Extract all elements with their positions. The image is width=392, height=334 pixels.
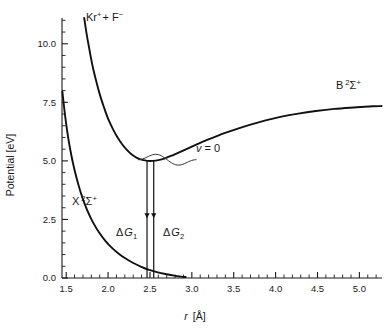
x-tick-label: 1.5 (60, 283, 73, 294)
y-tick-label: 10.0 (38, 38, 57, 49)
svg-text:r[Å]: r[Å] (184, 310, 205, 322)
kr-f-asymptote-label: Kr++ F− (86, 10, 124, 23)
kr-f-label-main: Kr (86, 11, 97, 23)
chart-canvas: 0.02.55.07.510.0 1.52.02.53.03.54.04.55.… (0, 0, 392, 334)
potential-energy-curve-figure: 0.02.55.07.510.0 1.52.02.53.03.54.04.55.… (0, 0, 392, 334)
x-tick-label: 3.5 (227, 283, 240, 294)
svg-text:v= 0: v= 0 (196, 142, 220, 154)
svg-text:Kr++ F−: Kr++ F− (86, 10, 124, 23)
x-state-potential-curve (62, 92, 185, 277)
delta-g2-delta-symbol: Δ (163, 226, 171, 238)
b-state-label: B2Σ+ (336, 78, 361, 91)
kr-f-label-mid: + F (102, 11, 118, 23)
delta-g2-subscript: 2 (180, 232, 184, 241)
x-state-label: X2Σ+ (72, 194, 97, 207)
kr-f-label-sup-minus: − (119, 10, 124, 19)
x-axis-title-unit: [Å] (193, 310, 206, 322)
y-tick-label: 5.0 (43, 155, 56, 166)
x-tick-label: 4.0 (269, 283, 282, 294)
b-state-letter: B (336, 79, 343, 91)
v-label-variable: v (196, 142, 203, 154)
delta-g1-delta-symbol: Δ (116, 226, 124, 238)
y-tick-label: 7.5 (43, 97, 56, 108)
v-label-value: = 0 (205, 142, 221, 154)
x-tick-label: 5.0 (353, 283, 366, 294)
svg-text:ΔG2: ΔG2 (163, 226, 184, 241)
vibrational-level-label: v= 0 (196, 142, 220, 154)
x-tick-label: 2.0 (101, 283, 114, 294)
y-tick-label: 2.5 (43, 214, 56, 225)
delta-g2-label: ΔG2 (163, 226, 184, 241)
delta-g1-arrow-head (144, 213, 149, 218)
kr-f-label-sup-plus: + (97, 10, 102, 19)
y-axis-title: Potential [eV] (4, 134, 16, 197)
x-tick-label: 3.0 (185, 283, 198, 294)
x-axis-tick-labels: 1.52.02.53.03.54.04.55.0 (60, 283, 366, 294)
x-tick-label: 4.5 (311, 283, 324, 294)
svg-text:X2Σ+: X2Σ+ (72, 194, 97, 207)
x-axis-title: r[Å] (184, 310, 205, 322)
delta-g1-label: ΔG1 (116, 226, 137, 241)
x-axis-title-variable: r (184, 310, 188, 322)
y-axis-tick-labels: 0.02.55.07.510.0 (38, 38, 57, 283)
x-axis-major-ticks (66, 272, 359, 278)
x-tick-label: 2.5 (143, 283, 156, 294)
svg-text:ΔG1: ΔG1 (116, 226, 137, 241)
b-state-charge: + (356, 78, 361, 87)
y-tick-label: 0.0 (43, 272, 56, 283)
svg-text:B2Σ+: B2Σ+ (336, 78, 361, 91)
delta-g2-arrow-head (151, 213, 156, 218)
transition-arrows-group (144, 160, 156, 278)
x-state-letter: X (72, 195, 80, 207)
delta-g1-subscript: 1 (133, 232, 137, 241)
x-state-charge: + (92, 194, 97, 203)
